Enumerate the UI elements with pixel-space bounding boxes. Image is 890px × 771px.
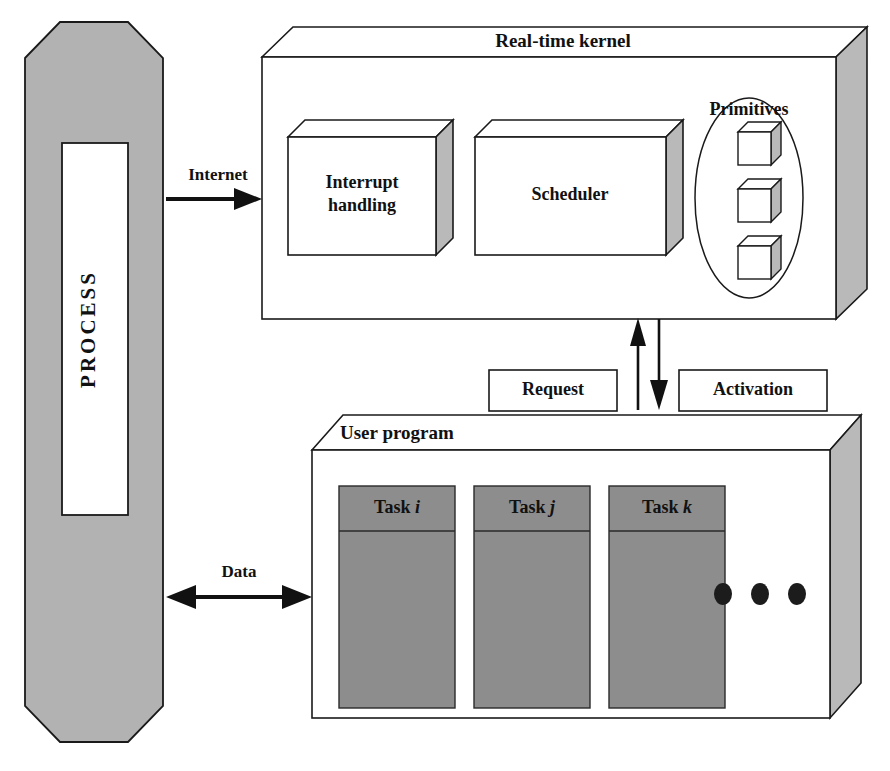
primitives-label: Primitives xyxy=(710,99,789,119)
activation-label: Activation xyxy=(713,379,793,399)
user-program-side-face xyxy=(830,415,861,718)
request-box: Request xyxy=(489,370,617,411)
kernel-side-face xyxy=(836,27,867,319)
process-shape: PROCESS xyxy=(25,22,163,742)
request-label: Request xyxy=(522,379,584,399)
primitive-cube-2 xyxy=(738,179,781,222)
data-arrow-head-left xyxy=(166,585,196,609)
data-label: Data xyxy=(222,562,257,581)
task-j-box: Task j xyxy=(474,486,590,708)
architecture-diagram: PROCESS Real-time kernel Interrupt handl… xyxy=(0,0,890,771)
interrupt-handling-top-face xyxy=(288,120,453,137)
task-j-rect xyxy=(474,486,590,708)
task-j-label: Task j xyxy=(509,497,556,517)
ellipsis-dot-2 xyxy=(751,583,769,605)
scheduler-side-face xyxy=(666,120,683,255)
task-k-prefix: Task xyxy=(642,497,678,517)
activation-connector xyxy=(650,319,668,410)
process-label: PROCESS xyxy=(76,270,100,388)
interrupt-handling-block: Interrupt handling xyxy=(288,120,453,255)
task-ellipsis-dots xyxy=(714,583,806,605)
task-k-box: Task k xyxy=(609,486,725,708)
task-i-rect xyxy=(339,486,455,708)
task-i-index: i xyxy=(415,497,420,517)
interrupt-handling-side-face xyxy=(436,120,453,255)
request-arrow-head xyxy=(630,318,646,346)
task-k-label: Task k xyxy=(642,497,692,517)
activation-arrow-head xyxy=(650,380,668,410)
scheduler-label: Scheduler xyxy=(531,184,608,204)
internet-label: Internet xyxy=(188,165,248,184)
primitive-cube-3 xyxy=(738,236,781,279)
request-connector xyxy=(630,318,646,410)
ellipsis-dot-1 xyxy=(714,583,732,605)
task-i-prefix: Task xyxy=(374,497,410,517)
interrupt-handling-label-line2: handling xyxy=(328,195,396,215)
data-connector: Data xyxy=(166,562,312,609)
task-i-label: Task i xyxy=(374,497,420,517)
internet-arrow-head xyxy=(234,188,262,210)
task-k-index: k xyxy=(683,497,692,517)
activation-box: Activation xyxy=(679,370,827,411)
kernel-title: Real-time kernel xyxy=(495,30,631,51)
scheduler-top-face xyxy=(475,120,683,137)
task-j-prefix: Task xyxy=(509,497,545,517)
internet-connector: Internet xyxy=(166,165,262,210)
scheduler-block: Scheduler xyxy=(475,120,683,255)
task-k-rect xyxy=(609,486,725,708)
user-program-title: User program xyxy=(340,422,454,443)
primitive-cube-1 xyxy=(738,122,781,165)
interrupt-handling-label-line1: Interrupt xyxy=(326,172,399,192)
task-i-box: Task i xyxy=(339,486,455,708)
data-arrow-head-right xyxy=(282,585,312,609)
diagram-root: PROCESS Real-time kernel Interrupt handl… xyxy=(0,0,890,771)
ellipsis-dot-3 xyxy=(788,583,806,605)
